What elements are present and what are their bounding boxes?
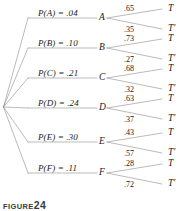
edge-b-tc	[107, 48, 162, 59]
primary-label-b: P(B) = .10	[38, 39, 78, 48]
terminal-d-tc: T′	[168, 114, 175, 124]
primary-label-e: P(E) = .30	[38, 133, 78, 142]
tree-branch-lines	[0, 0, 180, 211]
root-edge-f	[4, 107, 29, 173]
terminal-f-tc: T′	[168, 179, 175, 189]
node-e: E	[99, 137, 105, 147]
secondary-label-a-t: .65	[124, 5, 134, 13]
primary-label-c: P(C) = .21	[38, 69, 78, 78]
node-a: A	[99, 13, 105, 23]
node-b: B	[99, 43, 105, 53]
primary-label-d: P(D) = .24	[38, 99, 79, 108]
edge-c-tc	[107, 78, 162, 89]
secondary-label-d-t: .63	[124, 95, 134, 103]
terminal-d-t: T	[168, 94, 173, 104]
root-edge-a	[4, 18, 29, 107]
edge-a-tc	[107, 18, 162, 29]
secondary-label-f-t: .28	[124, 160, 134, 168]
edge-f-tc	[107, 173, 162, 184]
edge-d-tc	[107, 108, 162, 119]
secondary-label-b-tc: .27	[124, 56, 134, 64]
secondary-label-e-t: .43	[124, 129, 134, 137]
root-edge-d	[4, 107, 29, 108]
secondary-label-a-tc: .35	[124, 26, 134, 34]
terminal-f-t: T	[168, 159, 173, 169]
node-c: C	[99, 73, 105, 83]
edge-a-t	[107, 9, 162, 18]
secondary-label-b-t: .73	[124, 35, 134, 43]
terminal-e-tc: T′	[168, 148, 175, 158]
edge-f-t	[107, 164, 162, 173]
terminal-a-t: T	[168, 4, 173, 14]
probability-tree-figure: P(A) = .04 P(B) = .10 P(C) = .21 P(D) = …	[0, 0, 180, 211]
edge-d-t	[107, 99, 162, 108]
node-d: D	[99, 103, 106, 113]
primary-label-a: P(A) = .04	[38, 9, 78, 18]
edge-e-tc	[107, 142, 162, 153]
edge-e-t	[107, 133, 162, 142]
root-edge-e	[4, 107, 29, 142]
primary-label-f: P(F) = .11	[38, 164, 77, 173]
terminal-b-t: T	[168, 34, 173, 44]
secondary-label-d-tc: .37	[124, 116, 134, 124]
secondary-label-f-tc: .72	[124, 181, 134, 189]
secondary-label-e-tc: .57	[124, 150, 134, 158]
figure-caption-prefix: FIGURE	[3, 202, 34, 211]
secondary-label-c-tc: .32	[124, 86, 134, 94]
edge-b-t	[107, 39, 162, 48]
root-edge-b	[4, 48, 29, 107]
terminal-c-t: T	[168, 64, 173, 74]
figure-caption-number: 24	[34, 199, 46, 211]
node-f: F	[99, 168, 105, 178]
terminal-e-t: T	[168, 128, 173, 138]
figure-caption: FIGURE24	[3, 199, 46, 211]
root-edge-c	[4, 78, 29, 107]
edge-c-t	[107, 69, 162, 78]
secondary-label-c-t: .68	[124, 65, 134, 73]
